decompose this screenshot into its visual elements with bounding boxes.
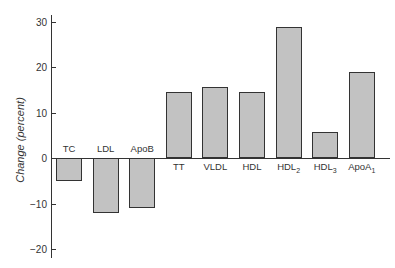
y-tick-label: 20 <box>17 62 47 73</box>
bar-ldl <box>93 158 119 213</box>
category-label: LDL <box>86 143 126 154</box>
y-tick <box>51 113 56 114</box>
bar-hdl <box>239 92 265 158</box>
category-label: ApoB <box>122 143 162 154</box>
category-label: HDL2 <box>269 161 309 174</box>
bar-tc <box>56 158 82 181</box>
y-tick-label: 30 <box>17 17 47 28</box>
bar-tt <box>166 92 192 158</box>
y-tick <box>51 67 56 68</box>
bar-hdl2 <box>276 27 302 158</box>
bar-vldl <box>202 87 228 158</box>
y-tick-label: −10 <box>17 199 47 210</box>
y-tick-label: 0 <box>17 153 47 164</box>
category-label: VLDL <box>195 161 235 172</box>
category-label: TC <box>49 143 89 154</box>
bar-apoa1 <box>349 72 375 158</box>
y-tick <box>51 22 56 23</box>
bar-chart: Change (percent) 3020100−10−20 TCLDLApoB… <box>0 0 395 268</box>
y-tick-label: 10 <box>17 108 47 119</box>
category-label: ApoA1 <box>342 161 382 174</box>
bar-apob <box>129 158 155 208</box>
y-tick <box>51 249 56 250</box>
y-axis-line <box>51 15 52 258</box>
y-tick-label: −20 <box>17 244 47 255</box>
category-label: HDL <box>232 161 272 172</box>
category-label: TT <box>159 161 199 172</box>
category-label: HDL3 <box>305 161 345 174</box>
y-tick <box>51 204 56 205</box>
bar-hdl3 <box>312 132 338 158</box>
